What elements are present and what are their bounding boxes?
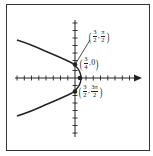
- polar-graph: [0, 0, 153, 156]
- label-point-3-2-3pi-2: ( 3 2 , 3π 2 ): [78, 84, 103, 98]
- point-3-2-pi-2: [73, 62, 78, 67]
- label-vertex-3-4-0: ( 3 4 , 0 ): [79, 56, 100, 70]
- point-3-2-3pi-2: [73, 89, 78, 94]
- fraction-theta: 3π 2: [91, 84, 99, 98]
- point-vertex-3-4-0: [78, 76, 83, 81]
- label-point-3-2-pi-2: ( 3 2 , π 2 ): [88, 29, 110, 43]
- fraction-r: 3 4: [84, 56, 88, 70]
- fraction-theta: π 2: [101, 29, 105, 43]
- fraction-r: 3 2: [83, 84, 87, 98]
- x-axis-arrow-icon: [134, 75, 142, 82]
- fraction-r: 3 2: [93, 29, 97, 43]
